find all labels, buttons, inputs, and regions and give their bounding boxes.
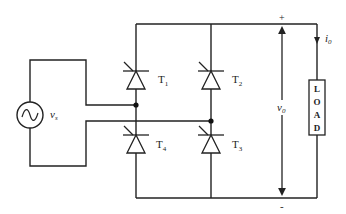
vout-label: v0 <box>277 101 286 115</box>
junction-dot-left <box>133 102 138 107</box>
source-label: vs <box>50 108 58 122</box>
iout-label: i0 <box>325 32 332 46</box>
t2-label: T2 <box>232 73 243 88</box>
iout-arrow-icon <box>314 37 320 44</box>
circuit-diagram: vs T1 T2 T4 T3 + - v0 i0 L O <box>0 0 346 214</box>
vout-minus-sign: - <box>280 200 284 212</box>
ac-source-icon <box>17 102 43 128</box>
load-letter-l: L <box>314 84 320 94</box>
t3-label: T3 <box>232 138 243 153</box>
junction-dot-right <box>208 118 213 123</box>
t4-label: T4 <box>156 138 167 153</box>
t1-label: T1 <box>158 73 169 88</box>
load-letter-d: D <box>314 123 321 133</box>
vout-plus-sign: + <box>279 12 285 23</box>
source-lower-wire <box>30 121 211 166</box>
source-upper-wire <box>30 60 136 105</box>
load-letter-a: A <box>314 110 321 120</box>
load-letter-o: O <box>313 97 320 107</box>
